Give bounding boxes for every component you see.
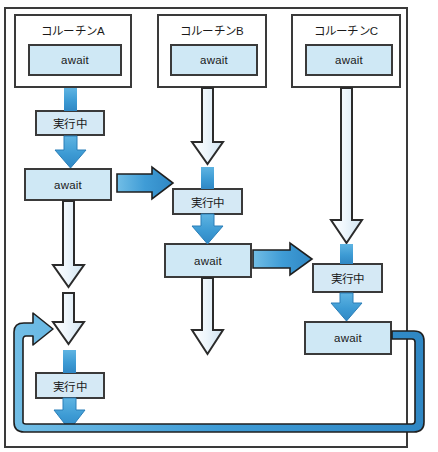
coroutine-a-running-1: 実行中: [35, 110, 105, 136]
coroutine-a-running-2: 実行中: [35, 372, 105, 399]
coroutine-a-container: コルーチンA await: [14, 14, 132, 88]
coroutine-c-header-await: await: [305, 44, 393, 76]
coroutine-c-running-1: 実行中: [312, 263, 383, 293]
coroutine-b-header-await: await: [170, 44, 258, 76]
coroutine-b-running-1: 実行中: [172, 188, 243, 215]
coroutine-b-await-1: await: [164, 243, 252, 278]
coroutine-a-title: コルーチンA: [16, 22, 130, 38]
coroutine-c-title: コルーチンC: [293, 22, 399, 38]
coroutine-a-header-await: await: [28, 44, 122, 76]
coroutine-a-await-1: await: [24, 168, 112, 201]
coroutine-b-title: コルーチンB: [159, 22, 265, 38]
coroutine-b-container: コルーチンB await: [157, 14, 267, 88]
coroutine-c-await-1: await: [304, 321, 392, 355]
coroutine-transition-diagram: コルーチンA await 実行中 await 実行中 コルーチンB await …: [0, 0, 438, 452]
coroutine-c-container: コルーチンC await: [291, 14, 401, 88]
